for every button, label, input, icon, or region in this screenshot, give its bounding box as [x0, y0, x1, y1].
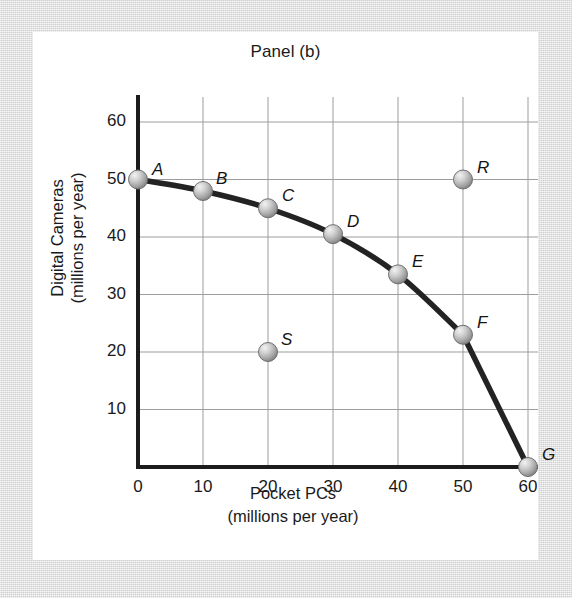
- data-point-g: [519, 458, 538, 477]
- data-point-f: [454, 325, 473, 344]
- point-label-c: C: [282, 186, 294, 206]
- x-tick-label-50: 50: [443, 477, 483, 497]
- data-point-r: [454, 170, 473, 189]
- data-point-e: [389, 265, 408, 284]
- y-tick-label-20: 20: [86, 341, 126, 361]
- y-tick-label-30: 30: [86, 284, 126, 304]
- point-label-s: S: [281, 330, 292, 350]
- x-tick-label-60: 60: [508, 477, 548, 497]
- point-label-f: F: [477, 313, 487, 333]
- grid-lines: [138, 97, 538, 467]
- y-tick-label-40: 40: [86, 226, 126, 246]
- axis-lines: [138, 97, 538, 467]
- x-tick-label-10: 10: [183, 477, 223, 497]
- point-label-b: B: [216, 169, 227, 189]
- data-point-c: [259, 199, 278, 218]
- x-tick-label-20: 20: [248, 477, 288, 497]
- y-tick-label-10: 10: [86, 399, 126, 419]
- point-label-d: D: [347, 212, 359, 232]
- outer-frame: Panel (b) Digital Cameras (millions per …: [0, 0, 572, 598]
- y-tick-label-50: 50: [86, 169, 126, 189]
- data-point-b: [194, 182, 213, 201]
- data-point-d: [324, 225, 343, 244]
- x-tick-label-30: 30: [313, 477, 353, 497]
- x-tick-label-40: 40: [378, 477, 418, 497]
- x-tick-label-0: 0: [118, 477, 158, 497]
- data-point-a: [129, 170, 148, 189]
- figure-card: Panel (b) Digital Cameras (millions per …: [33, 32, 538, 560]
- point-label-g: G: [542, 445, 555, 465]
- y-tick-label-60: 60: [86, 111, 126, 131]
- data-point-s: [259, 343, 278, 362]
- point-label-r: R: [477, 158, 489, 178]
- point-label-e: E: [412, 252, 423, 272]
- point-label-a: A: [152, 160, 163, 180]
